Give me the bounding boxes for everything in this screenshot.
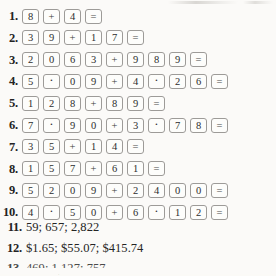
calculator-key-operator[interactable]: + xyxy=(106,205,123,220)
calculator-key-digit[interactable]: 0 xyxy=(190,183,207,198)
calculator-key-digit[interactable]: 2 xyxy=(169,74,186,89)
calculator-key-digit[interactable]: 5 xyxy=(43,161,60,176)
calculator-key-digit[interactable]: 0 xyxy=(85,118,102,133)
calculator-key-digit[interactable]: 9 xyxy=(85,74,102,89)
key-sequence: 4·50+6·12= xyxy=(22,205,228,220)
calculator-key-digit[interactable]: 6 xyxy=(127,205,144,220)
calculator-key-digit[interactable]: 2 xyxy=(127,183,144,198)
problem-row: 4.5·09+4·26= xyxy=(0,71,228,91)
calculator-key-digit[interactable]: 2 xyxy=(43,96,60,111)
calculator-key-digit[interactable]: 9 xyxy=(85,183,102,198)
calculator-key-decimal[interactable]: · xyxy=(148,74,165,89)
key-sequence: 2063+989= xyxy=(22,52,207,67)
problem-number: 5. xyxy=(0,93,22,113)
calculator-key-operator[interactable]: + xyxy=(85,161,102,176)
answer-row: 12.$1.65; $55.07; $415.74 xyxy=(0,240,143,256)
calculator-key-digit[interactable]: 6 xyxy=(190,74,207,89)
calculator-key-digit[interactable]: 0 xyxy=(169,183,186,198)
calculator-key-decimal[interactable]: · xyxy=(43,118,60,133)
calculator-key-digit[interactable]: 6 xyxy=(64,52,81,67)
calculator-key-digit[interactable]: 8 xyxy=(22,9,39,24)
problem-number: 3. xyxy=(0,50,22,70)
calculator-key-digit[interactable]: 4 xyxy=(148,183,165,198)
problem-row: 5.128+89= xyxy=(0,93,165,113)
calculator-key-equals[interactable]: = xyxy=(190,52,207,67)
calculator-key-operator[interactable]: + xyxy=(106,74,123,89)
problem-row: 1.8+4= xyxy=(0,6,102,26)
key-sequence: 35+14= xyxy=(22,139,144,154)
calculator-key-digit[interactable]: 1 xyxy=(22,96,39,111)
calculator-key-digit[interactable]: 1 xyxy=(22,161,39,176)
calculator-key-digit[interactable]: 0 xyxy=(64,183,81,198)
calculator-key-digit[interactable]: 8 xyxy=(64,96,81,111)
calculator-key-decimal[interactable]: · xyxy=(148,118,165,133)
calculator-key-digit[interactable]: 1 xyxy=(169,205,186,220)
calculator-key-decimal[interactable]: · xyxy=(148,205,165,220)
calculator-key-digit[interactable]: 0 xyxy=(85,205,102,220)
problem-row: 6.7·90+3·78= xyxy=(0,115,228,135)
calculator-key-equals[interactable]: = xyxy=(127,139,144,154)
calculator-key-digit[interactable]: 9 xyxy=(127,96,144,111)
calculator-key-digit[interactable]: 1 xyxy=(127,161,144,176)
calculator-key-digit[interactable]: 8 xyxy=(106,96,123,111)
calculator-key-digit[interactable]: 4 xyxy=(106,139,123,154)
calculator-key-digit[interactable]: 4 xyxy=(127,74,144,89)
calculator-key-digit[interactable]: 7 xyxy=(106,30,123,45)
calculator-key-digit[interactable]: 8 xyxy=(148,52,165,67)
calculator-key-operator[interactable]: + xyxy=(43,9,60,24)
calculator-key-digit[interactable]: 0 xyxy=(64,74,81,89)
calculator-key-digit[interactable]: 2 xyxy=(43,183,60,198)
calculator-key-digit[interactable]: 1 xyxy=(85,139,102,154)
answer-text: 59; 657; 2,822 xyxy=(26,219,99,235)
calculator-key-digit[interactable]: 1 xyxy=(85,30,102,45)
calculator-key-digit[interactable]: 7 xyxy=(169,118,186,133)
key-sequence: 157+61= xyxy=(22,161,165,176)
calculator-key-digit[interactable]: 3 xyxy=(127,118,144,133)
calculator-key-operator[interactable]: + xyxy=(85,96,102,111)
calculator-key-digit[interactable]: 9 xyxy=(127,52,144,67)
calculator-key-digit[interactable]: 7 xyxy=(64,161,81,176)
problem-row: 2.39+17= xyxy=(0,28,144,48)
key-sequence: 8+4= xyxy=(22,9,102,24)
calculator-key-operator[interactable]: + xyxy=(106,118,123,133)
calculator-key-operator[interactable]: + xyxy=(106,52,123,67)
problem-number: 9. xyxy=(0,180,22,200)
calculator-key-digit[interactable]: 3 xyxy=(22,139,39,154)
calculator-key-digit[interactable]: 2 xyxy=(22,52,39,67)
calculator-key-digit[interactable]: 0 xyxy=(43,52,60,67)
calculator-key-equals[interactable]: = xyxy=(148,96,165,111)
calculator-key-digit[interactable]: 5 xyxy=(43,139,60,154)
calculator-key-digit[interactable]: 3 xyxy=(85,52,102,67)
calculator-key-equals[interactable]: = xyxy=(211,74,228,89)
calculator-key-digit[interactable]: 2 xyxy=(190,205,207,220)
calculator-key-digit[interactable]: 9 xyxy=(64,118,81,133)
calculator-key-digit[interactable]: 8 xyxy=(190,118,207,133)
problem-row: 9.5209+2400= xyxy=(0,180,228,200)
calculator-key-equals[interactable]: = xyxy=(85,9,102,24)
calculator-key-digit[interactable]: 6 xyxy=(106,161,123,176)
calculator-key-equals[interactable]: = xyxy=(148,161,165,176)
calculator-key-decimal[interactable]: · xyxy=(43,74,60,89)
calculator-key-equals[interactable]: = xyxy=(127,30,144,45)
answer-row: 11.59; 657; 2,822 xyxy=(0,219,99,235)
calculator-key-digit[interactable]: 3 xyxy=(22,30,39,45)
key-sequence: 7·90+3·78= xyxy=(22,118,228,133)
calculator-key-equals[interactable]: = xyxy=(211,118,228,133)
calculator-key-digit[interactable]: 4 xyxy=(22,205,39,220)
calculator-key-decimal[interactable]: · xyxy=(43,205,60,220)
calculator-key-equals[interactable]: = xyxy=(211,183,228,198)
calculator-key-digit[interactable]: 7 xyxy=(22,118,39,133)
problem-number: 1. xyxy=(0,6,22,26)
calculator-key-digit[interactable]: 5 xyxy=(22,183,39,198)
calculator-key-operator[interactable]: + xyxy=(64,139,81,154)
calculator-key-digit[interactable]: 9 xyxy=(169,52,186,67)
problem-number: 8. xyxy=(0,159,22,179)
calculator-key-operator[interactable]: + xyxy=(106,183,123,198)
calculator-key-digit[interactable]: 5 xyxy=(22,74,39,89)
calculator-key-operator[interactable]: + xyxy=(64,30,81,45)
calculator-key-digit[interactable]: 9 xyxy=(43,30,60,45)
calculator-key-digit[interactable]: 5 xyxy=(64,205,81,220)
calculator-key-equals[interactable]: = xyxy=(211,205,228,220)
calculator-key-digit[interactable]: 4 xyxy=(64,9,81,24)
